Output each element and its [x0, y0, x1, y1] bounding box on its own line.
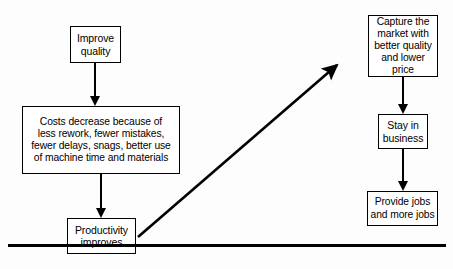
arrow-head-down-icon	[90, 96, 100, 106]
bottom-rule	[8, 244, 446, 247]
node-improve-quality: Improve quality	[70, 26, 121, 63]
arrow-head-down-icon	[96, 208, 106, 218]
node-provide-jobs: Provide jobs and more jobs	[367, 191, 438, 226]
node-costs-decrease: Costs decrease because of less rework, f…	[22, 106, 180, 174]
arrow-shaft	[94, 63, 97, 96]
node-capture-market: Capture the market with better quality a…	[368, 15, 438, 77]
arrow-capture-to-stay	[390, 77, 416, 114]
arrow-head-down-icon	[398, 104, 408, 114]
node-stay-in-business: Stay in business	[378, 114, 428, 149]
diagram-canvas: Improve quality Costs decrease because o…	[0, 0, 453, 269]
arrow-shaft	[402, 149, 405, 181]
arrow-quality-to-costs	[82, 63, 108, 106]
node-productivity-improves: Productivity improves	[67, 218, 136, 254]
arrow-shaft	[402, 77, 405, 104]
arrow-costs-to-productivity	[88, 174, 114, 218]
arrow-stay-to-jobs	[390, 149, 416, 191]
arrow-shaft	[100, 174, 103, 208]
arrow-head-down-icon	[398, 181, 408, 191]
